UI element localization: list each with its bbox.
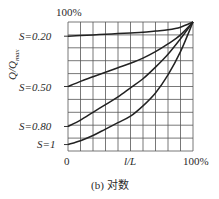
y-axis-label: Q/Qmax <box>6 49 21 80</box>
y-max-label: 100% <box>56 6 82 18</box>
series-label-s1: S=1 <box>37 138 55 150</box>
x-max-label: 100% <box>183 155 209 167</box>
x-origin-label: 0 <box>64 155 70 167</box>
series-label-s020: S=0.20 <box>19 30 51 42</box>
series-label-s050: S=0.50 <box>19 81 51 93</box>
x-axis-label: l/L <box>124 155 136 167</box>
series-label-s080: S=0.80 <box>19 120 51 132</box>
figure-caption: (b) 对数 <box>91 176 129 192</box>
